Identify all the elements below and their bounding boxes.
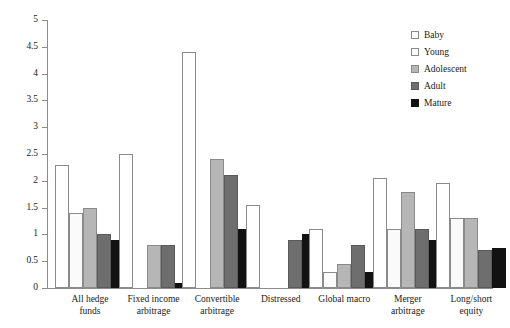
bar-adolescent[interactable] — [83, 208, 97, 288]
bar-young[interactable] — [387, 229, 401, 288]
y-axis-label: 3.5 — [0, 95, 38, 105]
x-axis-label-line: equity — [428, 306, 510, 318]
bar-adult[interactable] — [288, 240, 302, 288]
bar-adolescent[interactable] — [464, 218, 478, 288]
y-axis-label: 5 — [0, 15, 38, 25]
bar-group-bars — [55, 20, 125, 288]
bar-baby[interactable] — [309, 229, 323, 288]
bar-young[interactable] — [450, 218, 464, 288]
bar-adult[interactable] — [161, 245, 175, 288]
bar-group-bars — [309, 20, 379, 288]
bar-young[interactable] — [69, 213, 83, 288]
x-axis-label-line: arbitrage — [174, 306, 260, 318]
bar-baby[interactable] — [119, 154, 133, 288]
legend-item-label: Adult — [424, 81, 446, 91]
y-axis-label: 0.5 — [0, 256, 38, 266]
x-axis-label-line: Long/short — [428, 294, 510, 306]
bar-adult[interactable] — [351, 245, 365, 288]
bar-group-bars — [182, 20, 252, 288]
bar-mature[interactable] — [492, 248, 506, 288]
x-axis-category-label: Long/shortequity — [428, 294, 510, 317]
legend-item-young[interactable]: Young — [411, 45, 495, 58]
bar-group-bars — [119, 20, 189, 288]
y-axis-label: 4 — [0, 69, 38, 79]
legend-item-adult[interactable]: Adult — [411, 79, 495, 92]
bar-baby[interactable] — [55, 165, 69, 288]
bar-baby[interactable] — [436, 183, 450, 288]
chart-legend: BabyYoungAdolescentAdultMature — [411, 28, 495, 113]
bar-adult[interactable] — [478, 250, 492, 288]
y-axis-label: 3 — [0, 122, 38, 132]
y-axis-label: 2 — [0, 176, 38, 186]
legend-swatch-icon — [411, 65, 419, 73]
y-axis-label: 0 — [0, 283, 38, 293]
legend-item-label: Mature — [424, 98, 451, 108]
legend-swatch-icon — [411, 31, 419, 39]
bar-adolescent[interactable] — [337, 264, 351, 288]
legend-item-label: Baby — [424, 30, 444, 40]
bar-group-bars — [246, 20, 316, 288]
y-axis-label: 4.5 — [0, 42, 38, 52]
bar-adult[interactable] — [415, 229, 429, 288]
bar-adolescent[interactable] — [147, 245, 161, 288]
bar-young[interactable] — [323, 272, 337, 288]
bar-baby[interactable] — [246, 205, 260, 288]
legend-item-label: Young — [424, 47, 449, 57]
legend-swatch-icon — [411, 48, 419, 56]
bar-baby[interactable] — [182, 52, 196, 288]
legend-swatch-icon — [411, 82, 419, 90]
legend-item-label: Adolescent — [424, 64, 467, 74]
y-axis-tick — [42, 288, 47, 289]
y-axis-label: 1 — [0, 229, 38, 239]
legend-item-baby[interactable]: Baby — [411, 28, 495, 41]
y-axis-label: 1.5 — [0, 203, 38, 213]
y-axis-label: 2.5 — [0, 149, 38, 159]
legend-swatch-icon — [411, 99, 419, 107]
legend-item-adolescent[interactable]: Adolescent — [411, 62, 495, 75]
legend-item-mature[interactable]: Mature — [411, 96, 495, 109]
bar-adult[interactable] — [224, 175, 238, 288]
bar-adolescent[interactable] — [210, 159, 224, 288]
bar-adult[interactable] — [97, 234, 111, 288]
x-axis-line — [47, 288, 493, 289]
bar-baby[interactable] — [373, 178, 387, 288]
bar-adolescent[interactable] — [401, 192, 415, 288]
